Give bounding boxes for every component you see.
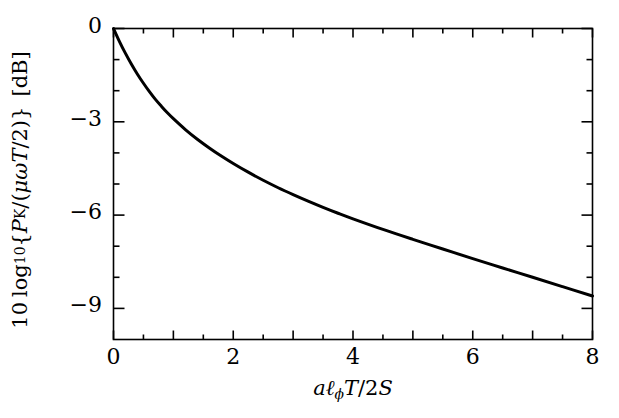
y-title-omega: ω [8,163,32,180]
x-tick-label-0: 0 [94,344,134,369]
y-axis-title: 10log10{PK/(μωT/2)}[dB] [0,20,40,360]
y-title-P-subscript: K [12,209,28,219]
figure-page: 02468 0−3−6−9 10log10{PK/(μωT/2)}[dB] aℓ… [0,0,619,418]
y-title-coefficient: 10 [8,302,32,329]
y-title-unit: [dB] [8,51,32,96]
x-title-slash-two: /2 [358,376,378,400]
chart-figure: 02468 0−3−6−9 10log10{PK/(μωT/2)}[dB] aℓ… [0,0,619,418]
x-tick-label-6: 6 [453,344,493,369]
y-title-T: T [8,149,32,163]
y-tick-label-neg9: −9 [50,292,102,317]
x-tick-label-8: 8 [573,344,613,369]
y-tick-label-neg6: −6 [50,199,102,224]
y-tick-label-0: 0 [50,13,102,38]
y-title-close-brace: } [8,107,32,120]
y-title-slash: / [8,202,32,209]
x-title-T: T [344,376,358,400]
y-title-open-paren: ( [8,193,32,201]
x-title-S: S [378,376,392,400]
x-title-a: a [313,376,326,400]
y-title-close-paren: ) [8,120,32,128]
plot-frame [114,29,593,340]
y-tick-label-neg3: −3 [50,106,102,131]
y-title-log: log [8,264,32,297]
x-axis-title: aℓϕT/2S [113,376,593,402]
y-title-mu: μ [8,180,32,194]
y-title-open-brace: { [8,233,32,246]
x-tick-label-2: 2 [213,344,253,369]
x-title-ell-subscript: ϕ [334,386,343,402]
y-title-over-two: /2 [8,128,32,148]
y-title-log-base: 10 [12,247,28,265]
y-title-P: P [8,219,32,233]
x-tick-label-4: 4 [333,344,373,369]
